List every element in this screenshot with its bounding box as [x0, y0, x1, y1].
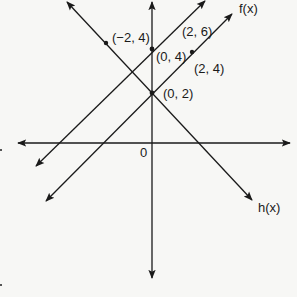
label-point-2-6: (2, 6)	[182, 24, 212, 39]
label-point-2-4: (2, 4)	[194, 61, 224, 76]
point-0-2	[150, 91, 155, 96]
edge-mark	[0, 284, 2, 286]
label-f-of-x: f(x)	[239, 1, 258, 16]
point-0-4	[150, 47, 155, 52]
point-2-4	[190, 50, 194, 54]
line-y-equals-x-plus-4	[36, 1, 205, 166]
edge-mark	[0, 149, 2, 151]
label-point-0-2: (0, 2)	[163, 86, 193, 101]
coordinate-plane: f(x) h(x) (2, 6) (0, 4) (2, 4) (0, 2) (−…	[0, 0, 297, 297]
label-origin: 0	[140, 145, 147, 160]
point-neg2-4	[104, 41, 108, 45]
label-point-neg2-4: (−2, 4)	[112, 30, 150, 45]
line-h-of-x	[67, 2, 252, 200]
label-point-0-4: (0, 4)	[156, 49, 186, 64]
label-h-of-x: h(x)	[258, 200, 280, 215]
